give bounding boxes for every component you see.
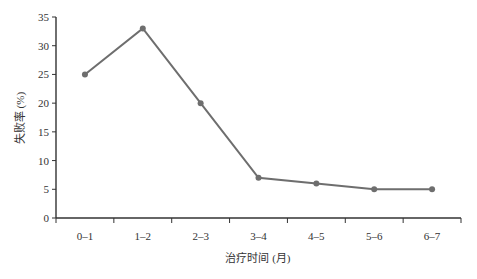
x-axis-label: 治疗时间 (月) [225, 251, 290, 265]
y-tick-label: 5 [44, 183, 50, 195]
data-series [82, 25, 435, 192]
x-tick-label: 4–5 [308, 230, 325, 242]
line-chart: 05101520253035 0–11–22–33–44–55–66–7 治疗时… [0, 0, 477, 279]
data-point-marker [82, 71, 88, 77]
x-tick-label: 3–4 [250, 230, 267, 242]
data-point-marker [198, 100, 204, 106]
y-tick-label: 10 [38, 155, 50, 167]
x-tick-label: 5–6 [366, 230, 383, 242]
y-axis: 05101520253035 [38, 11, 56, 224]
y-tick-label: 30 [38, 40, 50, 52]
series-line [85, 28, 432, 189]
x-axis: 0–11–22–33–44–55–66–7 [56, 218, 461, 242]
y-axis-label: 失败率 (%) [13, 92, 27, 145]
x-tick-label: 6–7 [424, 230, 441, 242]
data-point-marker [371, 186, 377, 192]
y-tick-label: 35 [38, 11, 50, 23]
data-point-marker [256, 175, 262, 181]
y-tick-label: 25 [38, 68, 50, 80]
y-tick-label: 20 [38, 97, 50, 109]
data-point-marker [429, 186, 435, 192]
data-point-marker [313, 181, 319, 187]
x-tick-label: 2–3 [192, 230, 209, 242]
x-tick-label: 1–2 [135, 230, 152, 242]
y-tick-label: 15 [38, 126, 50, 138]
x-tick-label: 0–1 [77, 230, 94, 242]
data-point-marker [140, 25, 146, 31]
y-tick-label: 0 [44, 212, 50, 224]
